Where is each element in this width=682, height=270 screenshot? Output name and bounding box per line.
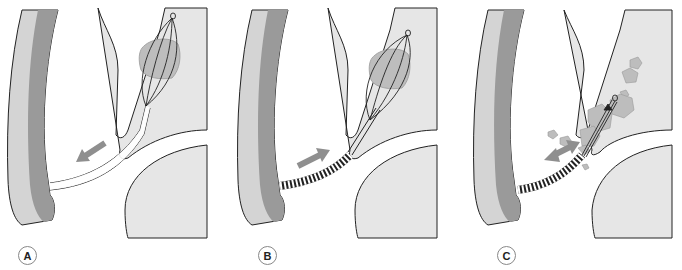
stone [139,39,180,79]
stone [369,49,410,89]
diagram-panel-a [0,0,228,270]
panel-label-b: B [258,246,277,265]
panel-label-a: A [18,246,37,265]
arrow-out-icon [76,143,105,162]
panel-b: B [230,0,458,270]
arrow-in-icon [298,148,330,166]
diagram-panel-c [460,0,682,270]
panel-a: A [0,0,228,270]
panel-label-c: C [497,246,516,265]
diagram-panel-b [230,0,458,270]
panel-c: C [460,0,682,270]
